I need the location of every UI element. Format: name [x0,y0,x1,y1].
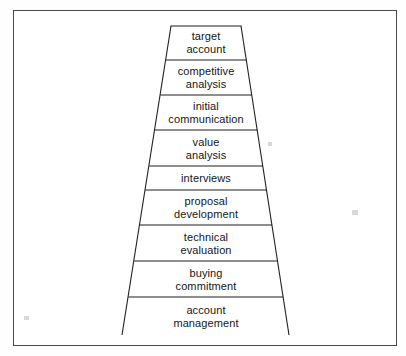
stage-label-line: proposal [185,195,228,208]
stage-label-line: technical [184,231,228,244]
stage-label-line: analysis [186,78,227,91]
stage-label-line: target [192,30,221,43]
scan-speck [268,142,272,146]
stage-label-line: competitive [178,65,235,78]
funnel-stage-value-analysis[interactable]: value analysis [146,132,266,165]
funnel-stage-interviews[interactable]: interviews [146,167,266,189]
funnel-stage-competitive-analysis[interactable]: competitive analysis [156,62,256,94]
stage-label-line: evaluation [180,244,231,257]
funnel-stage-initial-communication[interactable]: initial communication [146,97,266,129]
stage-label-line: value [193,136,220,149]
stage-label-line: commitment [176,280,237,293]
stage-label-line: account [186,304,225,317]
figure-root: target account competitive analysis init… [0,0,406,356]
stage-label-line: communication [168,113,243,126]
funnel-stage-proposal-development[interactable]: proposal development [140,192,272,224]
funnel-stage-technical-evaluation[interactable]: technical evaluation [134,227,278,260]
funnel-stage-buying-commitment[interactable]: buying commitment [129,263,283,296]
stage-label-line: account [186,43,225,56]
stage-label-line: management [173,317,238,330]
funnel-stage-target-account[interactable]: target account [166,27,246,59]
stage-label-line: development [174,208,238,221]
stage-label-line: analysis [186,149,227,162]
scan-speck [24,316,29,320]
stage-label-line: interviews [181,172,231,185]
stage-label-line: buying [189,267,222,280]
funnel-stage-account-management[interactable]: account management [123,300,289,334]
stage-label-line: initial [193,100,219,113]
scan-speck [352,210,358,215]
